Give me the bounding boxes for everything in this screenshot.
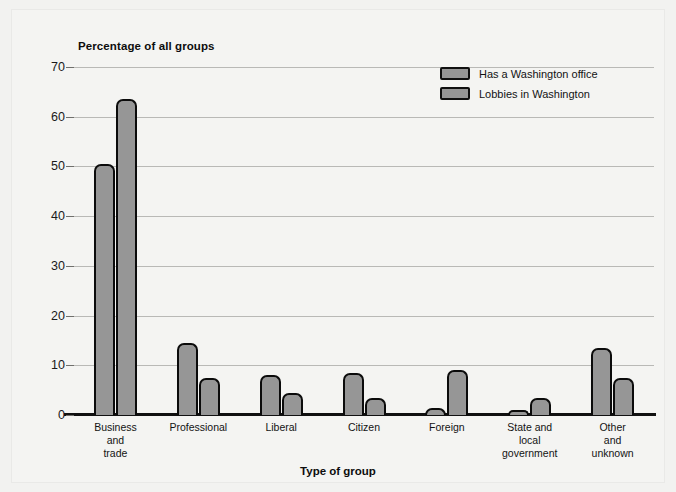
bar[interactable] (343, 373, 364, 415)
bar[interactable] (530, 398, 551, 415)
x-axis-category-label-line: Professional (157, 421, 240, 434)
bar[interactable] (282, 393, 303, 415)
x-axis-category-label: State andlocalgovernment (488, 421, 571, 460)
y-axis-tick-mark (66, 266, 74, 267)
bar-group (74, 67, 157, 415)
x-axis-category-label-line: Liberal (240, 421, 323, 434)
y-axis-tick-mark (66, 117, 74, 118)
x-axis-category-label-line: Other (571, 421, 654, 434)
legend-swatch (440, 87, 470, 100)
x-axis-category-label-line: and (74, 434, 157, 447)
y-axis-tick-label: 30 (51, 259, 65, 273)
bar[interactable] (591, 348, 612, 415)
bar[interactable] (508, 410, 529, 415)
x-axis-category-label-line: Citizen (323, 421, 406, 434)
y-axis-tick-mark (66, 67, 74, 68)
x-axis-category-label: Citizen (323, 421, 406, 460)
x-axis-category-label-line: unknown (571, 447, 654, 460)
bar-group (323, 67, 406, 415)
x-axis-category-label: Professional (157, 421, 240, 460)
y-axis-tick-label: 0 (58, 408, 65, 422)
bar-groups (74, 67, 654, 415)
y-axis-tick-label: 60 (51, 110, 65, 124)
bar[interactable] (177, 343, 198, 415)
x-axis-title: Type of group (12, 465, 664, 477)
x-axis-category-label: Liberal (240, 421, 323, 460)
bar[interactable] (365, 398, 386, 415)
bar-group (405, 67, 488, 415)
x-axis-category-label-line: and (571, 434, 654, 447)
bar-group (240, 67, 323, 415)
y-axis-tick-label: 10 (51, 358, 65, 372)
y-axis-tick-mark (66, 216, 74, 217)
legend-item[interactable]: Lobbies in Washington (440, 87, 598, 100)
x-axis-category-labels: BusinessandtradeProfessionalLiberalCitiz… (74, 421, 654, 460)
x-axis-category-label-line: trade (74, 447, 157, 460)
y-axis-tick-label: 50 (51, 159, 65, 173)
y-axis-title: Percentage of all groups (78, 40, 215, 52)
y-axis-tick-mark (66, 365, 74, 366)
bar[interactable] (425, 408, 446, 415)
x-axis-category-label: Foreign (405, 421, 488, 460)
chart-legend: Has a Washington officeLobbies in Washin… (440, 67, 598, 100)
x-axis-category-label: Otherandunknown (571, 421, 654, 460)
bar-group (571, 67, 654, 415)
bar-group (157, 67, 240, 415)
legend-label: Has a Washington office (479, 68, 598, 80)
bar[interactable] (94, 164, 115, 415)
x-axis-category-label: Businessandtrade (74, 421, 157, 460)
x-axis-category-label-line: State and (488, 421, 571, 434)
chart-page: Percentage of all groups 010203040506070… (0, 0, 676, 492)
y-axis-tick-mark (66, 415, 74, 416)
legend-label: Lobbies in Washington (479, 88, 590, 100)
legend-swatch (440, 67, 470, 80)
y-axis-tick-mark (66, 316, 74, 317)
x-axis-category-label-line: government (488, 447, 571, 460)
gridline (74, 415, 654, 416)
y-axis-tick-label: 70 (51, 60, 65, 74)
x-axis-category-label-line: Foreign (405, 421, 488, 434)
x-axis-category-label-line: Business (74, 421, 157, 434)
bar[interactable] (613, 378, 634, 415)
y-axis-tick-mark (66, 166, 74, 167)
x-axis-category-label-line: local (488, 434, 571, 447)
chart-canvas: Percentage of all groups 010203040506070… (12, 10, 664, 482)
bar[interactable] (447, 370, 468, 415)
y-axis-tick-label: 20 (51, 309, 65, 323)
bar-group (488, 67, 571, 415)
bar[interactable] (116, 99, 137, 415)
y-axis-tick-label: 40 (51, 209, 65, 223)
legend-item[interactable]: Has a Washington office (440, 67, 598, 80)
bar[interactable] (199, 378, 220, 415)
bar[interactable] (260, 375, 281, 415)
